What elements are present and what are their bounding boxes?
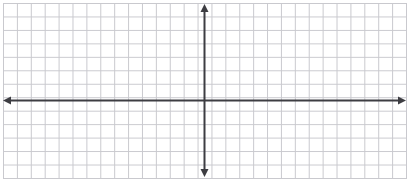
- horizontal-axis-right-arrowhead: [398, 97, 406, 105]
- vertical-axis: [201, 4, 209, 177]
- vertical-axis-bottom-arrowhead: [201, 169, 209, 177]
- axes-layer: [0, 0, 409, 188]
- horizontal-axis-left-arrowhead: [3, 97, 11, 105]
- vertical-axis-top-arrowhead: [201, 4, 209, 12]
- coordinate-grid-figure: [0, 0, 409, 188]
